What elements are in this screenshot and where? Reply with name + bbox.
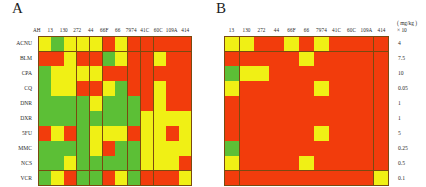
heatmap-cell — [51, 66, 63, 80]
heatmap-cell — [154, 37, 166, 51]
heatmap-cell — [284, 81, 298, 95]
heatmap-cell — [128, 171, 140, 185]
heatmap-cell — [103, 111, 115, 125]
heatmap-cell — [299, 126, 313, 140]
heatmap-cell — [103, 141, 115, 155]
heatmap-cell — [128, 111, 140, 125]
heatmap-cell — [154, 111, 166, 125]
heatmap-figure: A AH131302724466F66797441C60C109A414 ACN… — [0, 0, 426, 187]
heatmap-cell — [314, 52, 328, 66]
heatmap-cell — [166, 111, 178, 125]
heatmap-cell — [225, 111, 239, 125]
heatmap-cell — [115, 156, 127, 170]
heatmap-cell — [141, 156, 153, 170]
heatmap-cell — [299, 96, 313, 110]
column-header-7974: 7974 — [314, 26, 329, 34]
heatmap-cell — [225, 96, 239, 110]
heatmap-cell — [77, 126, 89, 140]
heatmap-cell — [77, 37, 89, 51]
heatmap-cell — [115, 66, 127, 80]
heatmap-cell — [154, 81, 166, 95]
row-label-dxr: DXR — [3, 111, 35, 126]
column-header-66: 66 — [299, 26, 314, 34]
heatmap-cell — [141, 126, 153, 140]
heatmap-cell — [254, 37, 268, 51]
column-header-414: 414 — [374, 26, 389, 34]
heatmap-cell — [359, 37, 373, 51]
heatmap-cell — [141, 37, 153, 51]
column-header-ah: AH — [30, 26, 44, 34]
heatmap-cell — [154, 52, 166, 66]
heatmap-cell — [329, 81, 343, 95]
heatmap-cell — [344, 111, 358, 125]
heatmap-cell — [51, 37, 63, 51]
heatmap-cell — [154, 156, 166, 170]
heatmap-cell — [179, 171, 191, 185]
dose-value: 5 — [395, 126, 426, 141]
heatmap-cell — [179, 126, 191, 140]
heatmap-cell — [344, 126, 358, 140]
heatmap-cell — [90, 66, 102, 80]
dose-value: 0.05 — [395, 81, 426, 96]
heatmap-cell — [115, 126, 127, 140]
heatmap-cell — [179, 52, 191, 66]
column-header-41c: 41C — [138, 26, 152, 34]
heatmap-cell — [64, 96, 76, 110]
heatmap-cell — [344, 52, 358, 66]
heatmap-cell — [154, 171, 166, 185]
heatmap-cell — [141, 111, 153, 125]
heatmap-cell — [329, 66, 343, 80]
heatmap-cell — [64, 81, 76, 95]
dose-unit-line-2: × 10 — [395, 27, 426, 34]
heatmap-cell — [269, 81, 283, 95]
heatmap-cell — [51, 156, 63, 170]
column-header-130: 130 — [57, 26, 71, 34]
heatmap-cell — [128, 37, 140, 51]
heatmap-cell — [103, 156, 115, 170]
column-header-66: 66 — [111, 26, 125, 34]
heatmap-cell — [64, 126, 76, 140]
heatmap-cell — [39, 81, 51, 95]
heatmap-cell — [284, 96, 298, 110]
heatmap-cell — [344, 141, 358, 155]
heatmap-cell — [329, 96, 343, 110]
heatmap-cell — [115, 171, 127, 185]
heatmap-cell — [299, 66, 313, 80]
heatmap-cell — [269, 52, 283, 66]
heatmap-cell — [374, 66, 388, 80]
heatmap-cell — [374, 126, 388, 140]
heatmap-cell — [314, 96, 328, 110]
heatmap-cell — [374, 52, 388, 66]
heatmap-cell — [254, 96, 268, 110]
heatmap-cell — [254, 66, 268, 80]
heatmap-cell — [284, 156, 298, 170]
heatmap-cell — [166, 52, 178, 66]
heatmap-cell — [225, 141, 239, 155]
heatmap-cell — [359, 81, 373, 95]
heatmap-cell — [359, 126, 373, 140]
heatmap-cell — [39, 156, 51, 170]
heatmap-cell — [128, 52, 140, 66]
heatmap-cell — [329, 156, 343, 170]
heatmap-cell — [299, 156, 313, 170]
heatmap-cell — [254, 156, 268, 170]
row-label-blm: BLM — [3, 51, 35, 66]
heatmap-cell — [225, 126, 239, 140]
heatmap-cell — [90, 96, 102, 110]
heatmap-cell — [51, 111, 63, 125]
dose-value: 0.25 — [395, 141, 426, 156]
heatmap-cell — [166, 126, 178, 140]
heatmap-cell — [240, 66, 254, 80]
heatmap-cell — [39, 111, 51, 125]
heatmap-cell — [254, 52, 268, 66]
heatmap-cell — [254, 81, 268, 95]
heatmap-cell — [359, 66, 373, 80]
heatmap-cell — [141, 52, 153, 66]
heatmap-cell — [314, 171, 328, 185]
heatmap-cell — [128, 96, 140, 110]
heatmap-cell — [314, 111, 328, 125]
row-labels: ACNUBLMCPACQDNRDXR5FUMMCNCSVCR — [3, 36, 35, 186]
heatmap-cell — [103, 37, 115, 51]
heatmap-cell — [359, 171, 373, 185]
heatmap-cell — [225, 81, 239, 95]
